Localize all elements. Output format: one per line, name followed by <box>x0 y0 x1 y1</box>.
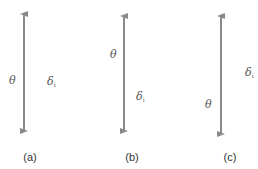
delta-label-b: δi <box>136 91 145 103</box>
theta-label-c: θ <box>205 99 212 110</box>
caption-b: (b) <box>125 152 138 163</box>
arrows-layer <box>0 0 258 169</box>
caption-c: (c) <box>224 152 237 163</box>
caption-a: (a) <box>23 152 36 163</box>
delta-symbol: δ <box>136 90 143 103</box>
theta-label-a: θ <box>9 75 16 86</box>
delta-symbol: δ <box>47 75 54 88</box>
delta-subscript: i <box>252 72 254 79</box>
delta-symbol: δ <box>245 66 252 79</box>
delta-subscript: i <box>143 96 145 103</box>
theta-label-b: θ <box>110 49 117 60</box>
delta-subscript: i <box>54 81 56 88</box>
diagram-canvas: θ δi (a) θ δi (b) θ δi (c) <box>0 0 258 169</box>
delta-label-a: δi <box>47 76 56 88</box>
delta-label-c: δi <box>245 67 254 79</box>
